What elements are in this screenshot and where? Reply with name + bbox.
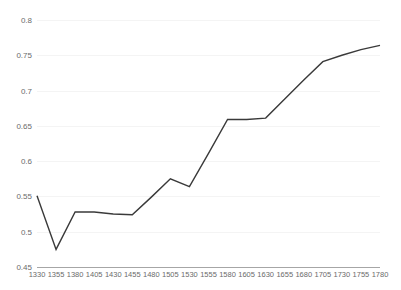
y-tick-label: 0.7 xyxy=(21,86,32,95)
y-tick-label: 0.55 xyxy=(16,192,32,201)
y-tick-label: 0.5 xyxy=(21,227,32,236)
x-tick-label: 1755 xyxy=(353,270,370,279)
x-tick-label: 1555 xyxy=(200,270,217,279)
y-tick-label: 0.75 xyxy=(16,51,32,60)
plot-area xyxy=(37,20,380,267)
x-tick-label: 1430 xyxy=(105,270,122,279)
x-axis-line xyxy=(37,267,380,268)
x-tick-label: 1705 xyxy=(314,270,331,279)
x-tick-label: 1455 xyxy=(124,270,141,279)
x-tick-label: 1630 xyxy=(257,270,274,279)
data-series-line xyxy=(37,20,380,267)
x-tick-label: 1730 xyxy=(334,270,351,279)
x-tick-label: 1405 xyxy=(86,270,103,279)
x-tick-label: 1330 xyxy=(29,270,46,279)
x-tick-label: 1505 xyxy=(162,270,179,279)
x-tick-label: 1480 xyxy=(143,270,160,279)
x-tick-label: 1605 xyxy=(238,270,255,279)
x-tick-label: 1780 xyxy=(372,270,389,279)
y-tick-label: 0.65 xyxy=(16,121,32,130)
x-tick-label: 1530 xyxy=(181,270,198,279)
line-chart: 0.80.750.70.650.60.550.50.45 13301355138… xyxy=(0,0,401,290)
x-axis-tick-labels: 1330135513801405143014551480150515301555… xyxy=(37,270,380,286)
x-tick-label: 1355 xyxy=(48,270,65,279)
y-tick-label: 0.6 xyxy=(21,157,32,166)
x-tick-label: 1680 xyxy=(295,270,312,279)
y-axis-tick-labels: 0.80.750.70.650.60.550.50.45 xyxy=(0,0,37,290)
x-tick-label: 1580 xyxy=(219,270,236,279)
x-tick-label: 1380 xyxy=(67,270,84,279)
y-tick-label: 0.8 xyxy=(21,16,32,25)
x-tick-label: 1655 xyxy=(276,270,293,279)
